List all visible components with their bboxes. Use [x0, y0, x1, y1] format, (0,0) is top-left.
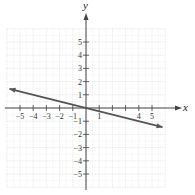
y-tick-label: 2 [78, 78, 82, 87]
y-tick-label: 1 [78, 91, 82, 100]
x-tick-label: 1 [97, 112, 101, 121]
x-tick-label: −3 [42, 112, 51, 121]
y-tick-label: 3 [78, 64, 82, 73]
x-tick-label: 5 [150, 112, 154, 121]
y-tick-label: 4 [78, 51, 82, 60]
x-tick-label: −5 [16, 112, 25, 121]
x-axis-arrow-icon [175, 106, 182, 111]
y-tick-label: −2 [73, 130, 82, 139]
x-tick-label: −4 [29, 112, 38, 121]
y-tick-label: −1 [73, 117, 82, 126]
y-tick-label: 5 [78, 38, 82, 47]
y-tick-label: −3 [73, 144, 82, 153]
x-tick-label: 4 [137, 112, 141, 121]
y-tick-label: −5 [73, 170, 82, 179]
x-tick-label: −2 [55, 112, 64, 121]
y-axis-label: y [82, 0, 88, 11]
y-axis-arrow-icon [84, 13, 89, 20]
coordinate-plane: −5−4−3−2−1145−5−4−3−2−112345 x y [0, 0, 195, 195]
x-axis-label: x [182, 101, 188, 113]
y-tick-label: −4 [73, 157, 82, 166]
